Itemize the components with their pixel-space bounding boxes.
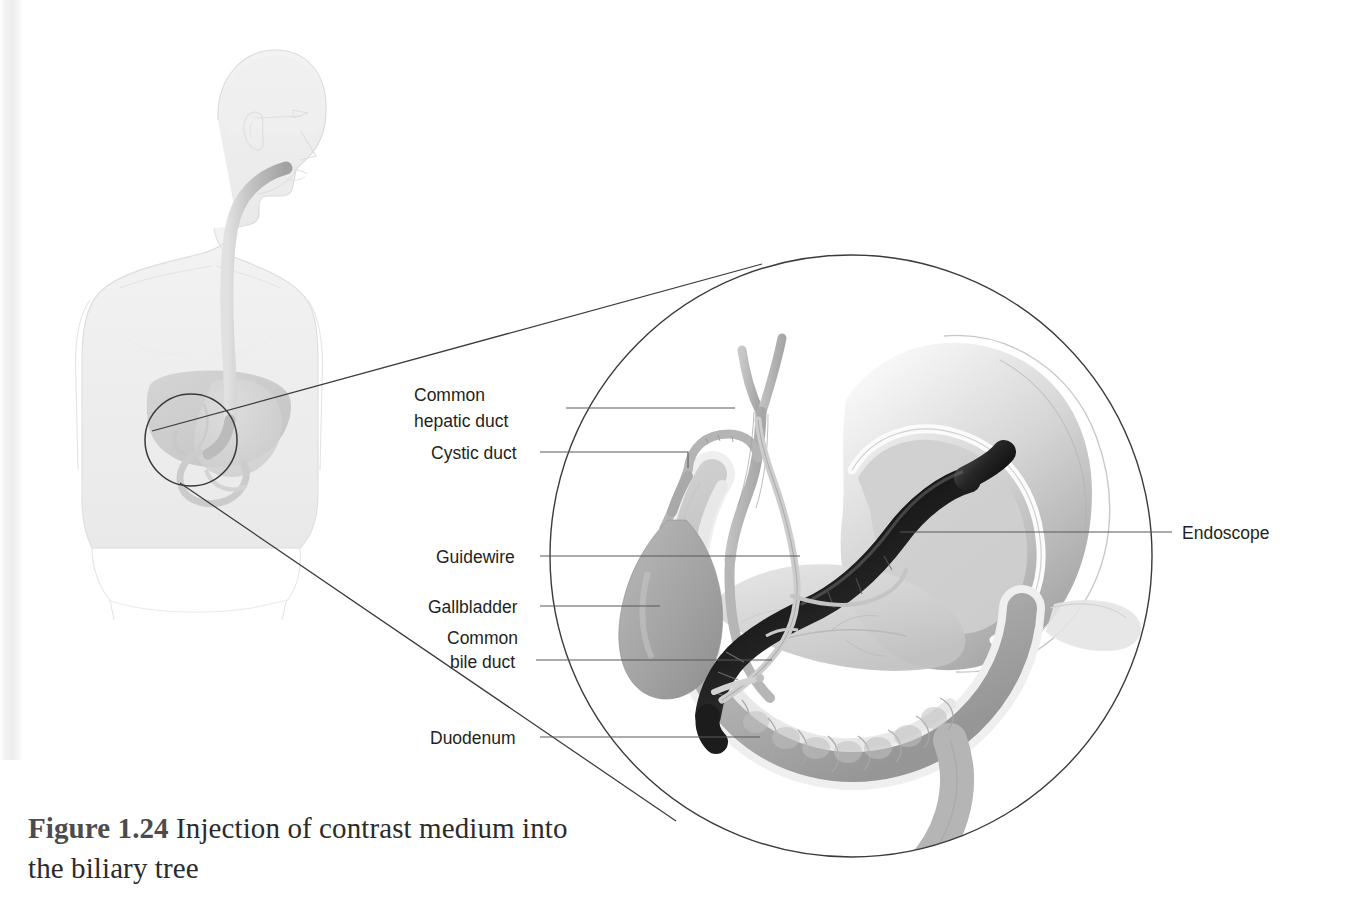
figure-page: Common hepatic duct Cystic duct Guidewir… bbox=[0, 0, 1350, 923]
patient-inset-illustration bbox=[76, 50, 327, 620]
label-common-hepatic-duct-line1: Common bbox=[414, 385, 485, 405]
label-common-bile-duct-line2: bile duct bbox=[450, 652, 515, 672]
figure-number: Figure 1.24 bbox=[28, 812, 169, 844]
label-endoscope: Endoscope bbox=[1182, 523, 1270, 543]
leader-cystic-duct bbox=[540, 452, 688, 468]
figure-illustration: Common hepatic duct Cystic duct Guidewir… bbox=[0, 0, 1350, 923]
label-common-bile-duct-line1: Common bbox=[447, 628, 518, 648]
magnified-anatomy-group bbox=[619, 335, 1141, 880]
label-common-hepatic-duct-line2: hepatic duct bbox=[414, 411, 509, 431]
label-guidewire: Guidewire bbox=[436, 547, 515, 567]
figure-caption: Figure 1.24 Injection of contrast medium… bbox=[28, 808, 588, 888]
label-duodenum: Duodenum bbox=[430, 728, 516, 748]
label-cystic-duct: Cystic duct bbox=[431, 443, 517, 463]
patient-head bbox=[218, 50, 326, 227]
label-gallbladder: Gallbladder bbox=[428, 597, 518, 617]
